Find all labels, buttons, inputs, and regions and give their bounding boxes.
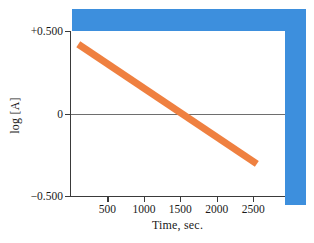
x-tick-label-4: 2000	[205, 204, 228, 216]
plot-shadow-right	[285, 9, 306, 205]
y-tick-label-upper: +0.500	[31, 26, 63, 38]
x-tick-label-3: 1500	[169, 204, 192, 216]
y-axis-title-text: log [A]	[8, 97, 23, 133]
plot-shadow-top	[72, 9, 285, 31]
data-line-segment	[78, 44, 257, 164]
x-tick-label-2: 1000	[132, 204, 155, 216]
x-axis-title: Time, sec.	[70, 218, 285, 233]
y-tick-label-zero: 0	[57, 109, 63, 121]
chart-figure: +0.500 0 −0.500 500 1000 1500 2000 2500 …	[0, 0, 314, 243]
x-tick-label-1: 500	[99, 204, 116, 216]
x-tick-label-5: 2500	[242, 204, 265, 216]
series-line-log-a	[71, 31, 286, 197]
y-axis-title: log [A]	[4, 50, 26, 180]
y-tick-label-lower: −0.500	[31, 191, 63, 203]
plot-area: +0.500 0 −0.500 500 1000 1500 2000 2500	[70, 31, 285, 197]
